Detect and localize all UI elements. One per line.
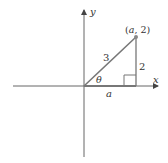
right-angle-marker	[124, 75, 136, 86]
triangle-diagram: y x (a, 2) 3 2 θ a	[0, 0, 168, 163]
hypotenuse	[84, 37, 136, 86]
x-axis-label: x	[153, 74, 159, 85]
y-axis-label: y	[89, 6, 96, 17]
point-label: (a, 2)	[125, 24, 150, 35]
hypotenuse-label: 3	[103, 52, 109, 63]
point-marker	[134, 35, 138, 39]
vertical-leg-label: 2	[139, 61, 145, 72]
point-label-rest: , 2)	[134, 24, 150, 35]
horizontal-leg-label: a	[106, 88, 112, 99]
angle-label: θ	[96, 74, 102, 85]
